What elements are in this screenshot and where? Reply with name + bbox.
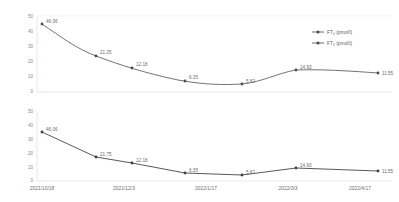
bottom-data-point [377,170,380,173]
top-data-point [295,69,298,72]
legend-marker-icon [317,31,320,34]
top-data-point [377,72,380,75]
chart-panel-top: 50 40 30 20 10 0 46.06 21.25 12.18 6.35 … [0,0,399,101]
bottom-value-label-5: 5.82 [246,170,255,175]
legend-marker-icon [317,42,320,45]
bottom-ytick-30: 30 [28,137,34,142]
xtick-4: 2022/3/3 [278,186,297,191]
bottom-value-label-2: 21.75 [100,152,112,157]
bottom-chart-svg: 50 40 30 20 10 0 46.06 21.75 12.18 6.35 … [0,101,399,202]
bottom-data-point [131,162,134,165]
top-chart-svg: 50 40 30 20 10 0 46.06 21.25 12.18 6.35 … [0,0,399,101]
top-data-point [241,83,244,86]
top-ytick-30: 30 [28,44,34,49]
bottom-value-label-6: 14.93 [300,163,312,168]
top-value-label-5: 5.82 [246,79,255,84]
bottom-value-label-7: 11.55 [382,169,394,174]
top-data-point [184,80,187,83]
bottom-value-label-3: 12.18 [136,158,148,163]
legend: FT₄ (pmol/l) FT₃ (pmol/l) [312,30,353,46]
top-data-point [41,23,44,26]
top-ytick-40: 40 [28,29,34,34]
top-data-point [131,67,134,70]
bottom-data-point [184,172,187,175]
top-ytick-0: 0 [30,89,33,94]
bottom-data-point [41,131,44,134]
bottom-value-label-1: 46.06 [46,127,58,132]
legend-item-ft3[interactable]: FT₃ (pmol/l) [312,41,353,46]
top-value-label-7: 11.55 [382,71,394,76]
xtick-3: 2022/1/17 [195,186,217,191]
chart-panel-bottom: 50 40 30 20 10 0 46.06 21.75 12.18 6.35 … [0,101,399,202]
xtick-2: 2021/12/3 [113,186,135,191]
top-data-point [95,55,98,58]
xtick-1: 2021/10/18 [30,186,55,191]
bottom-value-label-4: 6.35 [189,168,198,173]
legend-label-ft3: FT₃ (pmol/l) [327,41,353,46]
bottom-data-point [95,156,98,159]
bottom-ytick-0: 0 [30,178,33,183]
xtick-5: 2022/4/17 [349,186,371,191]
top-value-label-4: 6.35 [189,75,198,80]
top-ytick-20: 20 [28,59,34,64]
top-value-label-6: 14.93 [300,65,312,70]
bottom-ytick-10: 10 [28,165,34,170]
top-ytick-50: 50 [28,14,34,19]
bottom-series-line [42,132,378,175]
chart-root: 50 40 30 20 10 0 46.06 21.25 12.18 6.35 … [0,0,399,202]
bottom-data-point [241,174,244,177]
top-value-label-3: 12.18 [136,62,148,67]
top-ytick-10: 10 [28,74,34,79]
top-value-label-1: 46.06 [46,19,58,24]
bottom-data-point [295,167,298,170]
top-value-label-2: 21.25 [100,50,112,55]
bottom-ytick-50: 50 [28,109,34,114]
bottom-ytick-40: 40 [28,123,34,128]
legend-item-ft4[interactable]: FT₄ (pmol/l) [312,30,353,35]
bottom-ytick-20: 20 [28,151,34,156]
legend-label-ft4: FT₄ (pmol/l) [327,30,353,35]
